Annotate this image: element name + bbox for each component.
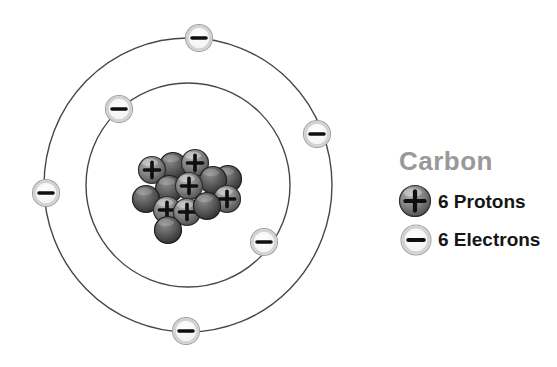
sphere-highlight bbox=[157, 199, 173, 207]
legend-protons-label: 6 Protons bbox=[438, 191, 526, 213]
sphere-highlight bbox=[217, 188, 233, 196]
sphere-highlight bbox=[179, 175, 195, 183]
electron-inner bbox=[251, 229, 278, 256]
electron-outer bbox=[173, 318, 200, 345]
atom-diagram: Carbon 6 Protons 6 Electrons bbox=[0, 0, 557, 367]
sphere-highlight bbox=[163, 155, 179, 163]
sphere-highlight bbox=[158, 219, 174, 227]
sphere-highlight bbox=[203, 169, 219, 177]
electron-outer bbox=[186, 25, 213, 52]
electron-outer bbox=[304, 121, 331, 148]
electron-outer bbox=[33, 180, 60, 207]
sphere-highlight bbox=[403, 188, 422, 197]
electron-icon bbox=[401, 225, 431, 255]
sphere-highlight bbox=[177, 201, 193, 209]
atom-svg bbox=[0, 0, 557, 367]
neutron-particle bbox=[194, 193, 221, 220]
legend-title: Carbon bbox=[399, 146, 493, 177]
legend-electrons-label: 6 Electrons bbox=[438, 229, 540, 251]
sphere-highlight bbox=[136, 188, 152, 196]
sphere-highlight bbox=[159, 178, 175, 186]
neutron-particle bbox=[155, 217, 182, 244]
sphere-highlight bbox=[185, 152, 201, 160]
proton-icon bbox=[400, 186, 431, 217]
electron-inner bbox=[106, 96, 133, 123]
sphere-highlight bbox=[197, 195, 213, 203]
sphere-highlight bbox=[142, 159, 158, 167]
